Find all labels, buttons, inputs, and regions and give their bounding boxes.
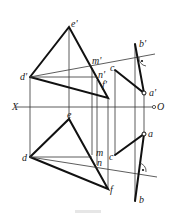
label-a-prime: a': [149, 87, 157, 98]
label-c: c: [109, 151, 114, 162]
label-e: e: [67, 109, 72, 120]
label-e-prime: e': [71, 18, 78, 29]
line-c-a-b-top: [115, 134, 144, 201]
label-d: d: [22, 152, 28, 163]
caption-faint: [75, 210, 101, 213]
projection-diagram: X O e' d' m' n' f' c a' b' e d m n f c a…: [0, 0, 169, 216]
point-a-prime-marker: [142, 91, 146, 95]
label-m-prime: m': [92, 55, 102, 66]
axis-origin-marker: [152, 105, 155, 108]
axis-label-x: X: [11, 101, 19, 112]
label-b-prime: b': [139, 38, 147, 49]
label-d-prime: d': [20, 71, 28, 82]
label-n: n: [97, 157, 102, 168]
right-angle-dot-top: [142, 169, 144, 171]
point-a-marker: [142, 132, 146, 136]
line-c-a-b-front: [115, 44, 144, 93]
label-f-prime: f': [102, 79, 108, 90]
axis-label-o: O: [157, 101, 164, 112]
right-angle-dot-front: [141, 60, 143, 62]
label-c-prime: c: [110, 62, 115, 73]
label-b: b: [139, 194, 144, 205]
label-f: f: [110, 184, 114, 195]
label-a: a: [148, 128, 153, 139]
